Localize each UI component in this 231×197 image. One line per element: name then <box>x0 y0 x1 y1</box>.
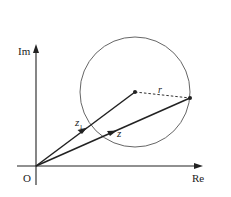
vector-z-label: z <box>116 127 122 139</box>
vector-z1-label: z1 <box>74 116 83 131</box>
center-point <box>133 90 137 94</box>
real-axis-label: Re <box>192 172 204 184</box>
real-axis-arrow-icon <box>194 163 203 169</box>
imag-axis-arrow-icon <box>33 44 39 53</box>
complex-plane-diagram: Im Re O r z1 z <box>0 0 231 197</box>
radius-line <box>135 92 190 98</box>
imag-axis-label: Im <box>18 45 31 57</box>
vector-z-arrow-icon <box>107 131 117 137</box>
radius-label: r <box>158 84 162 95</box>
origin-label: O <box>23 172 31 184</box>
circle-point <box>188 96 192 100</box>
